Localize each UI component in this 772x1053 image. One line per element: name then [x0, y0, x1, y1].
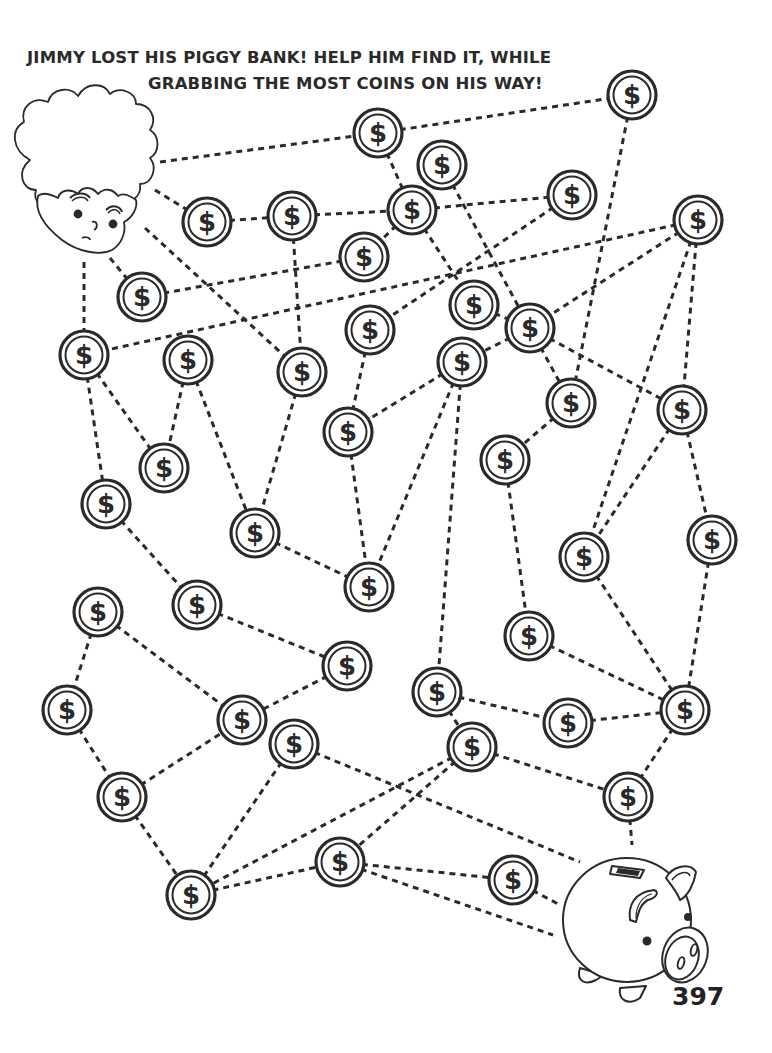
- coin-icon[interactable]: $: [661, 686, 709, 734]
- coin-icon[interactable]: $: [674, 196, 722, 244]
- dollar-sign: $: [559, 708, 577, 738]
- coin-icon[interactable]: $: [345, 563, 393, 611]
- dollar-sign: $: [246, 518, 264, 548]
- dashed-path[interactable]: [584, 410, 682, 557]
- dashed-path[interactable]: [584, 557, 685, 710]
- dollar-sign: $: [339, 417, 357, 447]
- coin-icon[interactable]: $: [43, 686, 91, 734]
- piggy-bank-icon[interactable]: [563, 858, 715, 1002]
- dollar-sign: $: [331, 847, 349, 877]
- dollar-sign: $: [133, 282, 151, 312]
- coin-icon[interactable]: $: [346, 306, 394, 354]
- coin-icon[interactable]: $: [658, 386, 706, 434]
- coin-icon[interactable]: $: [183, 198, 231, 246]
- dollar-sign: $: [75, 340, 93, 370]
- puzzle-instructions-line-2: GRABBING THE MOST COINS ON HIS WAY!: [148, 74, 543, 93]
- dollar-sign: $: [155, 453, 173, 483]
- coin-icon[interactable]: $: [164, 336, 212, 384]
- coin-icon[interactable]: $: [547, 379, 595, 427]
- coin-icon[interactable]: $: [505, 612, 553, 660]
- dollar-sign: $: [496, 445, 514, 475]
- dashed-path[interactable]: [437, 362, 462, 692]
- coin-icon[interactable]: $: [608, 71, 656, 119]
- dollar-sign: $: [360, 572, 378, 602]
- dollar-sign: $: [619, 782, 637, 812]
- dashed-path[interactable]: [682, 220, 698, 410]
- dollar-sign: $: [283, 201, 301, 231]
- coin-icon[interactable]: $: [548, 171, 596, 219]
- coin-icon[interactable]: $: [278, 348, 326, 396]
- coin-icon[interactable]: $: [544, 699, 592, 747]
- coin-icon[interactable]: $: [438, 338, 486, 386]
- dollar-sign: $: [520, 621, 538, 651]
- dashed-path[interactable]: [571, 95, 632, 403]
- dollar-sign: $: [113, 782, 131, 812]
- dollar-sign: $: [575, 542, 593, 572]
- dashed-path[interactable]: [142, 257, 364, 297]
- dollar-sign: $: [673, 395, 691, 425]
- boy-face-icon[interactable]: [15, 85, 158, 253]
- dollar-sign: $: [504, 865, 522, 895]
- dashed-path[interactable]: [160, 133, 378, 162]
- dollar-sign: $: [369, 118, 387, 148]
- dollar-sign: $: [463, 732, 481, 762]
- dollar-sign: $: [689, 205, 707, 235]
- coin-icon[interactable]: $: [167, 871, 215, 919]
- dashed-path[interactable]: [378, 95, 632, 133]
- coin-icon[interactable]: $: [604, 773, 652, 821]
- coin-icon[interactable]: $: [354, 109, 402, 157]
- dollar-sign: $: [182, 880, 200, 910]
- coin-icon[interactable]: $: [448, 723, 496, 771]
- coin-icon[interactable]: $: [324, 408, 372, 456]
- coin-icon[interactable]: $: [481, 436, 529, 484]
- coin-icon[interactable]: $: [316, 838, 364, 886]
- dollar-sign: $: [433, 150, 451, 180]
- coin-icon[interactable]: $: [82, 480, 130, 528]
- coin-icon[interactable]: $: [506, 304, 554, 352]
- coin-icon[interactable]: $: [413, 668, 461, 716]
- coin-icon[interactable]: $: [60, 331, 108, 379]
- dollar-sign: $: [521, 313, 539, 343]
- dollar-sign: $: [233, 705, 251, 735]
- coin-icon[interactable]: $: [340, 233, 388, 281]
- maze-puzzle: $$$$$$$$$$$$$$$$$$$$$$$$$$$$$$$$$$$$$$$$…: [0, 0, 772, 1053]
- dollar-sign: $: [453, 347, 471, 377]
- coin-icon[interactable]: $: [450, 281, 498, 329]
- dashed-path[interactable]: [530, 220, 698, 328]
- dollar-sign: $: [293, 357, 311, 387]
- coin-icon[interactable]: $: [418, 141, 466, 189]
- coin-icon[interactable]: $: [173, 581, 221, 629]
- dollar-sign: $: [361, 315, 379, 345]
- coin-icon[interactable]: $: [489, 856, 537, 904]
- dollar-sign: $: [563, 180, 581, 210]
- dollar-sign: $: [465, 290, 483, 320]
- dashed-path[interactable]: [505, 460, 529, 636]
- dollar-sign: $: [179, 345, 197, 375]
- dollar-sign: $: [285, 729, 303, 759]
- coin-icon[interactable]: $: [323, 642, 371, 690]
- dollar-sign: $: [188, 590, 206, 620]
- dollar-sign: $: [562, 388, 580, 418]
- dollar-sign: $: [428, 677, 446, 707]
- coin-icon[interactable]: $: [118, 273, 166, 321]
- coin-icon[interactable]: $: [688, 516, 736, 564]
- coin-icon[interactable]: $: [218, 696, 266, 744]
- coin-icon[interactable]: $: [98, 773, 146, 821]
- coin-icon[interactable]: $: [140, 444, 188, 492]
- coin-icon[interactable]: $: [268, 192, 316, 240]
- coin-icon[interactable]: $: [560, 533, 608, 581]
- dollar-sign: $: [623, 80, 641, 110]
- dashed-path[interactable]: [191, 744, 294, 895]
- coin-icon[interactable]: $: [231, 509, 279, 557]
- maze-canvas: $$$$$$$$$$$$$$$$$$$$$$$$$$$$$$$$$$$$$$$$…: [0, 0, 772, 1053]
- dollar-sign: $: [97, 489, 115, 519]
- coin-icon[interactable]: $: [270, 720, 318, 768]
- dollar-sign: $: [198, 207, 216, 237]
- coin-icon[interactable]: $: [388, 186, 436, 234]
- dashed-path[interactable]: [98, 612, 242, 720]
- coin-icon[interactable]: $: [74, 588, 122, 636]
- dashed-path[interactable]: [685, 540, 712, 710]
- dashed-path[interactable]: [188, 360, 255, 533]
- dashed-path[interactable]: [529, 636, 685, 710]
- puzzle-instructions-line-1: JIMMY LOST HIS PIGGY BANK! HELP HIM FIND…: [27, 48, 551, 67]
